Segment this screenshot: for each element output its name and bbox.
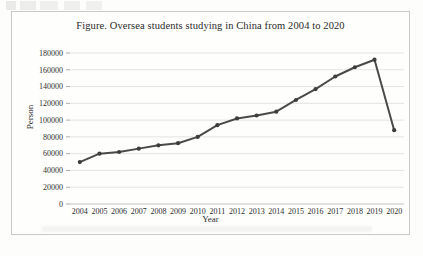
gridlines [66,53,404,204]
y-axis-tick-label: 0 [59,200,63,209]
y-axis-tick-label: 140000 [39,82,63,91]
x-axis-tick-label: 2020 [386,207,402,216]
y-axis-tick-label: 100000 [39,116,63,125]
y-axis-tick-label: 20000 [43,183,63,192]
series-data-point [274,110,278,114]
x-axis-tick-label: 2008 [150,207,166,216]
x-axis-tick-label: 2010 [190,207,206,216]
x-axis-tick-label: 2011 [210,207,226,216]
line-chart-plot: 1800001600001400001200001000008000060000… [12,12,411,236]
data-series-oversea-students [78,58,397,165]
scan-artifact-bottom-edge [42,226,372,232]
x-axis-tick-label: 2017 [327,207,343,216]
series-data-point [137,147,141,151]
chart-frame: Figure. Oversea students studying in Chi… [11,11,410,235]
series-data-point [353,65,357,69]
series-data-point [372,58,376,62]
series-data-point [235,116,239,120]
y-axis-tick-label: 120000 [39,99,63,108]
x-axis-tick-label: 2015 [288,207,304,216]
x-axis-tick-label: 2012 [229,207,245,216]
series-line-path [80,60,394,162]
y-axis-tick-label: 180000 [39,49,63,58]
series-data-point [78,160,82,164]
series-data-point [97,152,101,156]
y-axis-tick-label: 80000 [43,133,63,142]
series-data-point [215,123,219,127]
x-axis-tick-label: 2018 [347,207,363,216]
scan-artifact-top-edge [6,1,126,10]
series-data-point [392,128,396,132]
x-axis-tick-labels: 2004200520062007200820092010201120122013… [72,207,402,216]
series-data-point [196,135,200,139]
y-axis-tick-label: 40000 [43,166,63,175]
series-data-point [156,143,160,147]
x-axis-tick-label: 2016 [308,207,324,216]
series-data-point [313,87,317,91]
y-axis-tick-label: 160000 [39,66,63,75]
series-data-point [294,98,298,102]
x-axis-tick-label: 2005 [91,207,107,216]
x-axis-tick-label: 2019 [367,207,383,216]
series-data-point [333,74,337,78]
y-axis-tick-labels: 1800001600001400001200001000008000060000… [39,49,63,209]
series-data-point [255,113,259,117]
x-axis-tick-label: 2014 [268,207,284,216]
y-axis-tick-label: 60000 [43,149,63,158]
x-axis-tick-label: 2006 [111,207,127,216]
x-axis-tick-label: 2004 [72,207,88,216]
x-axis-tick-label: 2009 [170,207,186,216]
series-data-point [176,141,180,145]
series-data-point [117,150,121,154]
x-axis-tick-label: 2013 [249,207,265,216]
x-axis-tick-label: 2007 [131,207,147,216]
